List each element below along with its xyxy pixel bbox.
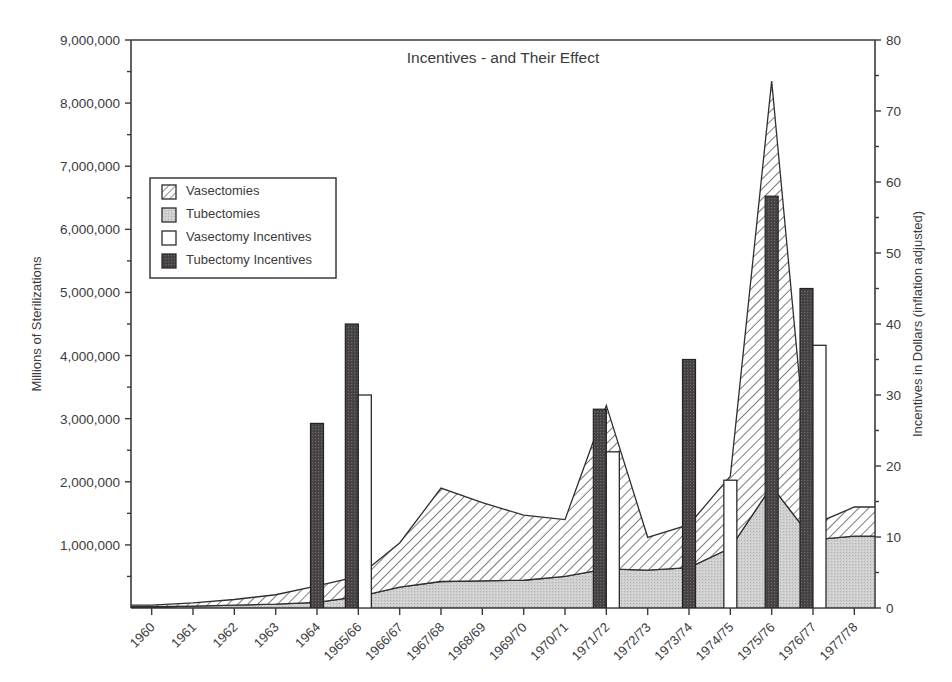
bar-vasectomy-incentives-1971-72[interactable] <box>606 452 619 608</box>
x-tick-label: 1960 <box>127 620 158 651</box>
y-tick-label-left: 9,000,000 <box>60 33 120 48</box>
y-tick-label-right: 80 <box>886 33 901 48</box>
x-tick-label: 1962 <box>209 620 240 651</box>
x-tick-label: 1972/73 <box>610 620 654 664</box>
legend-label-tubectomy-incentives: Tubectomy Incentives <box>186 252 312 267</box>
x-tick-label: 1975/76 <box>734 620 778 664</box>
legend-label-tubectomies: Tubectomies <box>186 206 260 221</box>
stacked-area-series <box>131 81 875 608</box>
y-tick-label-right: 50 <box>886 246 901 261</box>
y-tick-label-right: 60 <box>886 175 901 190</box>
x-tick-label: 1961 <box>168 620 199 651</box>
x-tick-label: 1976/77 <box>775 620 819 664</box>
bar-tubectomy-incentives-1964[interactable] <box>311 423 324 608</box>
y-axis-right-title: Incentives in Dollars (inflation adjuste… <box>910 211 925 437</box>
x-tick-label: 1974/75 <box>693 620 737 664</box>
bar-tubectomy-incentives-1976-77[interactable] <box>800 289 813 609</box>
y-tick-label-left: 7,000,000 <box>60 159 120 174</box>
chart-title: Incentives - and Their Effect <box>407 49 600 66</box>
x-axis-ticks: 196019611962196319641965/661966/671967/6… <box>127 608 861 663</box>
x-tick-label: 1967/68 <box>403 620 447 664</box>
chart-container: 9,000,0008,000,0007,000,0006,000,0005,00… <box>0 0 952 682</box>
legend-swatch-diagonal-hatch <box>162 185 176 199</box>
x-tick-label: 1966/67 <box>362 620 406 664</box>
incentives-chart: 9,000,0008,000,0007,000,0006,000,0005,00… <box>0 0 952 682</box>
y-tick-label-right: 10 <box>886 530 901 545</box>
x-tick-label: 1973/74 <box>651 620 695 664</box>
y-tick-label-right: 30 <box>886 388 901 403</box>
x-tick-label: 1971/72 <box>569 620 613 664</box>
bar-tubectomy-incentives-1965-66[interactable] <box>345 324 358 608</box>
bar-tubectomy-incentives-1971-72[interactable] <box>593 409 606 608</box>
x-tick-label: 1964 <box>292 620 323 651</box>
x-tick-label: 1968/69 <box>445 620 489 664</box>
x-tick-label: 1970/71 <box>527 620 571 664</box>
legend-swatch-white <box>162 231 176 245</box>
bar-vasectomy-incentives-1976-77[interactable] <box>813 345 826 608</box>
y-tick-label-right: 40 <box>886 317 901 332</box>
y-tick-label-left: 1,000,000 <box>60 538 120 553</box>
legend: VasectomiesTubectomiesVasectomy Incentiv… <box>150 178 336 278</box>
bar-tubectomy-incentives-1975-76[interactable] <box>765 196 778 608</box>
bar-vasectomy-incentives-1965-66[interactable] <box>358 395 371 608</box>
y-tick-label-left: 6,000,000 <box>60 222 120 237</box>
y-tick-label-right: 70 <box>886 104 901 119</box>
y-axis-left-title: Millions of Sterilizations <box>29 256 44 392</box>
y-tick-label-right: 20 <box>886 459 901 474</box>
x-tick-label: 1977/78 <box>817 620 861 664</box>
legend-label-vasectomy-incentives: Vasectomy Incentives <box>186 229 312 244</box>
y-tick-label-right: 0 <box>886 601 894 616</box>
y-tick-label-left: 3,000,000 <box>60 412 120 427</box>
x-tick-label: 1965/66 <box>321 620 365 664</box>
y-tick-label-left: 4,000,000 <box>60 349 120 364</box>
bar-tubectomy-incentives-1973-74[interactable] <box>683 360 696 609</box>
bar-vasectomy-incentives-1974-75[interactable] <box>724 480 737 608</box>
y-axis-left-ticks: 9,000,0008,000,0007,000,0006,000,0005,00… <box>60 33 131 576</box>
x-tick-label: 1963 <box>251 620 282 651</box>
y-tick-label-left: 8,000,000 <box>60 96 120 111</box>
x-tick-label: 1969/70 <box>486 620 530 664</box>
y-tick-label-left: 2,000,000 <box>60 475 120 490</box>
legend-swatch-gray-dotted <box>162 208 176 222</box>
legend-swatch-dark <box>162 254 176 268</box>
y-tick-label-left: 5,000,000 <box>60 285 120 300</box>
legend-label-vasectomies: Vasectomies <box>186 183 260 198</box>
y-axis-right-ticks: 80706050403020100 <box>875 33 901 616</box>
